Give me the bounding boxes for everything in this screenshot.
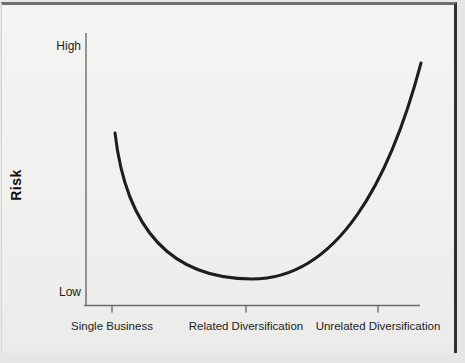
y-axis-low-label: Low bbox=[0, 285, 81, 299]
y-axis-high-label: High bbox=[0, 39, 81, 53]
risk-curve-chart bbox=[0, 0, 465, 363]
figure-canvas: Risk High Low Single Business Related Di… bbox=[0, 0, 465, 363]
x-axis-ticks bbox=[112, 306, 378, 313]
x-label-unrelated-diversification: Unrelated Diversification bbox=[298, 319, 458, 333]
risk-curve bbox=[115, 63, 421, 279]
y-axis-title: Risk bbox=[8, 155, 24, 215]
